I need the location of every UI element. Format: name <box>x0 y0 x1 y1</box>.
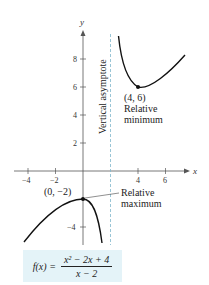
x-tick-label: −2 <box>50 176 59 185</box>
formula: f(x) = x² − 2x + 4 x − 2 <box>23 250 122 282</box>
asymptote-label: Vertical asymptote <box>97 59 108 134</box>
curve-left-branch <box>24 199 102 243</box>
function-graph: x −4 −2 4 6 y 8 6 4 2 −4 Vertical asympt… <box>0 0 209 285</box>
formula-box: f(x) = x² − 2x + 4 x − 2 <box>23 250 122 282</box>
curve-right-branch <box>119 36 186 87</box>
x-tick-label: 4 <box>136 176 140 185</box>
relative-minimum: (4, 6) Relative minimum <box>124 85 163 125</box>
formula-fraction: x² − 2x + 4 x − 2 <box>61 254 112 279</box>
max-point-marker <box>81 197 85 201</box>
y-axis: y 8 6 4 2 −4 <box>67 17 86 245</box>
y-tick-label: 6 <box>73 83 77 92</box>
y-axis-arrow-icon <box>81 30 86 36</box>
x-axis-arrow-icon <box>184 169 190 174</box>
y-tick-label: 4 <box>73 111 77 120</box>
min-label-line2: minimum <box>124 114 163 125</box>
y-axis-letter: y <box>79 17 84 27</box>
formula-lhs: f(x) = <box>33 261 56 272</box>
max-label-line2: maximum <box>121 198 162 209</box>
formula-denominator: x − 2 <box>76 267 97 279</box>
formula-numerator: x² − 2x + 4 <box>61 254 112 267</box>
y-tick-label: −4 <box>67 223 76 232</box>
y-tick-label: 8 <box>73 55 77 64</box>
min-point-marker <box>136 85 140 89</box>
x-axis-letter: x <box>192 166 197 176</box>
max-coords-label: (0, −2) <box>44 186 71 198</box>
x-axis: x −4 −2 4 6 <box>14 166 197 185</box>
max-label-line1: Relative <box>121 187 155 198</box>
vertical-asymptote: Vertical asymptote <box>97 34 111 245</box>
y-tick-label: 2 <box>73 139 77 148</box>
min-label-line1: Relative <box>124 103 158 114</box>
x-tick-label: 6 <box>163 176 167 185</box>
x-tick-label: −4 <box>22 176 31 185</box>
